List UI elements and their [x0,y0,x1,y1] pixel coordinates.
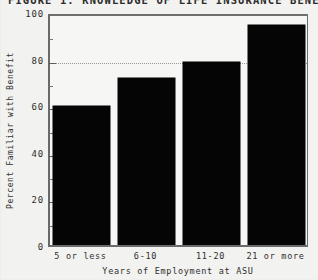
bar [183,62,240,246]
x-axis-title: Years of Employment at ASU [48,266,308,276]
figure-title-clipped-region: FIGURE 1. KNOWLEDGE OF LIFE INSURANCE BE… [0,0,318,9]
y-axis-tick-label: 100 [14,10,44,19]
bar [53,106,110,246]
y-axis-tick-label: 80 [14,57,44,66]
y-axis-tick-labels: 020406080100 [10,0,44,280]
x-axis-tick-label: 6-10 [113,251,178,261]
scan-speck [189,164,191,166]
y-axis-tick-label: 40 [14,150,44,159]
plot-area [48,14,308,247]
y-axis-minor-tick [49,39,53,40]
scan-speck [135,230,137,232]
bar [118,78,175,246]
x-axis-tick-label: 5 or less [48,251,113,261]
figure-title: FIGURE 1. KNOWLEDGE OF LIFE INSURANCE BE… [8,0,318,6]
x-axis-tick-label: 11-20 [178,251,243,261]
figure-screenshot: FIGURE 1. KNOWLEDGE OF LIFE INSURANCE BE… [0,0,318,280]
y-axis-tick-label: 20 [14,196,44,205]
y-axis-minor-tick [49,86,53,87]
y-axis-tick-label: 0 [14,243,44,252]
bar [248,25,305,246]
x-axis-tick-label: 21 or more [243,251,308,261]
y-axis-tick-label: 60 [14,103,44,112]
plot-inner [49,16,307,246]
y-axis-major-tick [49,63,56,64]
x-axis-tick-labels: 5 or less6-1011-2021 or more [48,251,308,265]
